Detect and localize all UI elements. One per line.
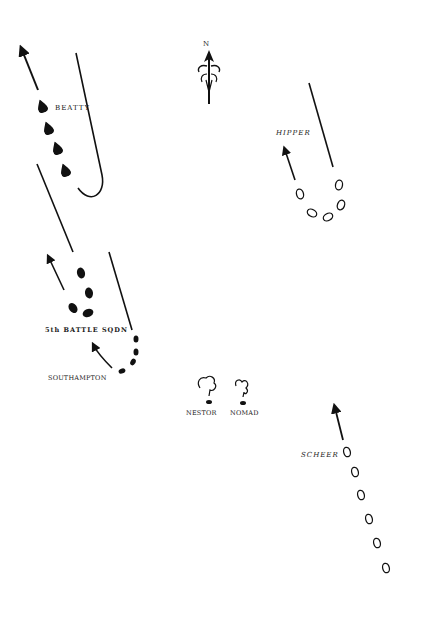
hipper-group [285,83,346,223]
hipper-label: HIPPER [276,130,311,137]
scheer-course-arrow [335,408,343,440]
nestor-marker [198,376,215,404]
compass-north-label: N [203,41,210,48]
southampton-group [94,336,139,375]
battle-diagram [0,0,423,619]
compass-rose [198,50,219,104]
scheer-label: SCHEER [301,452,339,459]
fifth-bs-course-arrow [49,258,64,290]
beatty-turn-track [76,53,103,197]
beatty-group [22,50,103,252]
scheer-group [335,408,390,573]
southampton-label: SOUTHAMPTON [48,375,107,382]
nestor-label: NESTOR [186,410,217,417]
hipper-track-line [309,83,333,167]
beatty-course-arrow [22,50,38,90]
southampton-ships [118,336,139,375]
scheer-ships [343,447,391,574]
beatty-label: BEATTY [55,105,90,112]
fifth-battle-sqdn-group [49,252,132,330]
nomad-label: NOMAD [230,410,259,417]
hipper-course-arrow [285,150,295,180]
southampton-course-arrow [94,346,112,368]
fifth-bs-ships [67,267,95,319]
hipper-ships [295,179,346,222]
fifth-bs-track-line [109,252,132,330]
beatty-wake-line [37,164,73,252]
fifth-battle-sqdn-label: 5th BATTLE SQDN [45,327,128,334]
nomad-marker [236,380,248,405]
